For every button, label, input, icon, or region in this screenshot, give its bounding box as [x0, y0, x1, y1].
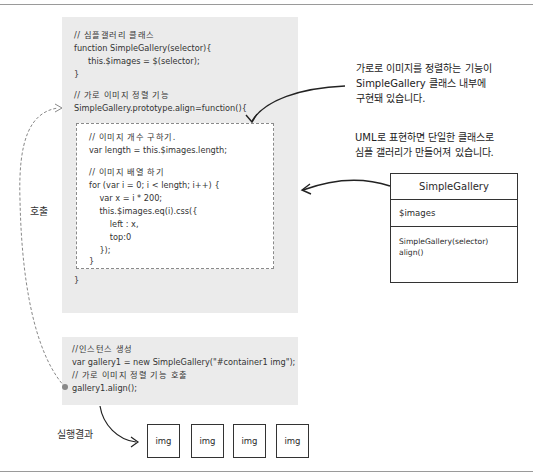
dashed-call-path [20, 108, 65, 387]
curved-arrow-to-result [100, 406, 136, 442]
curved-arrow-note-to-method [252, 86, 345, 121]
connector-arrows [0, 0, 533, 475]
arrowhead-icon [246, 114, 257, 122]
curved-arrow-uml-to-method [303, 180, 390, 190]
call-origin-dot-icon [62, 384, 68, 390]
